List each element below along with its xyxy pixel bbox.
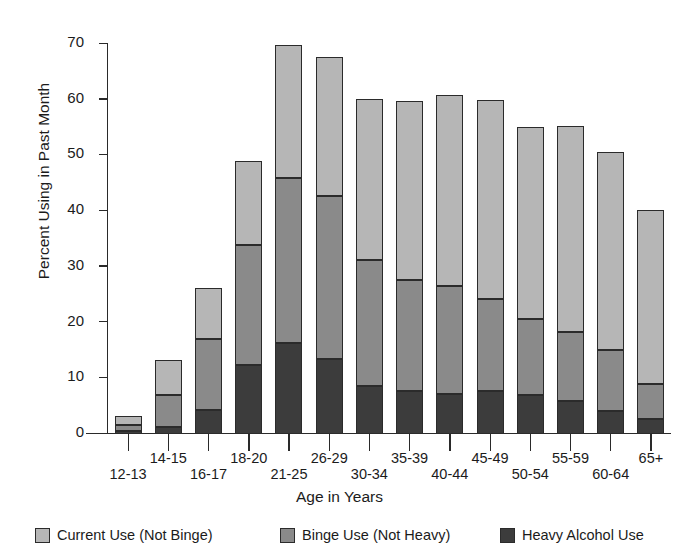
bar-segment-binge	[316, 196, 343, 359]
bar-segment-binge	[155, 395, 182, 427]
bar-segment-heavy	[637, 419, 664, 434]
bar-group	[316, 57, 343, 434]
y-tick-30	[99, 265, 108, 266]
x-tick-60-64	[610, 434, 611, 451]
bar-segment-binge	[637, 384, 664, 419]
x-label-45-49: 45-49	[455, 450, 525, 466]
legend-label-heavy: Heavy Alcohol Use	[522, 527, 644, 543]
legend-item-heavy: Heavy Alcohol Use	[500, 527, 644, 543]
bar-segment-current	[235, 161, 262, 245]
x-label-50-54: 50-54	[495, 466, 565, 482]
x-tick-16-17	[208, 434, 209, 451]
bar-segment-binge	[275, 178, 302, 343]
bar-segment-binge	[396, 280, 423, 390]
bar-group	[115, 416, 142, 434]
y-tick-label-0: 0	[22, 423, 84, 440]
bar-segment-binge	[517, 319, 544, 395]
y-tick-label-60: 60	[22, 89, 84, 106]
x-tick-26-29	[329, 434, 330, 451]
clipped-caption	[0, 0, 679, 3]
x-tick-12-13	[128, 434, 129, 451]
x-label-21-25: 21-25	[254, 466, 324, 482]
bar-group	[155, 360, 182, 434]
y-tick-20	[99, 321, 108, 322]
x-label-55-59: 55-59	[535, 450, 605, 466]
bar-segment-current	[115, 416, 142, 425]
x-label-60-64: 60-64	[576, 466, 646, 482]
y-tick-70	[99, 43, 108, 44]
legend-label-current: Current Use (Not Binge)	[57, 527, 213, 543]
x-label-65+: 65+	[616, 450, 679, 466]
bar-segment-heavy	[155, 427, 182, 434]
y-tick-50	[99, 154, 108, 155]
bar-segment-binge	[195, 339, 222, 410]
bar-group	[356, 99, 383, 434]
chart-legend: Current Use (Not Binge)Binge Use (Not He…	[0, 527, 679, 553]
x-tick-45-49	[490, 434, 491, 451]
x-tick-55-59	[570, 434, 571, 451]
bar-group	[275, 45, 302, 434]
x-axis-title: Age in Years	[0, 488, 679, 506]
legend-swatch-current	[35, 528, 50, 543]
bar-segment-heavy	[275, 343, 302, 434]
y-tick-label-70: 70	[22, 33, 84, 50]
bar-segment-current	[195, 288, 222, 339]
bar-group	[597, 152, 624, 434]
bar-segment-binge	[436, 286, 463, 394]
bar-group	[396, 101, 423, 434]
bar-segment-binge	[477, 299, 504, 390]
x-label-14-15: 14-15	[133, 450, 203, 466]
y-tick-label-30: 30	[22, 256, 84, 273]
bar-segment-heavy	[436, 394, 463, 434]
plot-area	[108, 43, 655, 434]
bar-segment-binge	[235, 245, 262, 366]
bar-segment-heavy	[356, 386, 383, 434]
y-tick-10	[99, 377, 108, 378]
y-tick-label-40: 40	[22, 200, 84, 217]
bar-group	[557, 126, 584, 434]
legend-label-binge: Binge Use (Not Heavy)	[302, 527, 450, 543]
bar-segment-binge	[356, 260, 383, 386]
y-tick-60	[99, 98, 108, 99]
legend-item-current: Current Use (Not Binge)	[35, 527, 213, 543]
bar-segment-current	[396, 101, 423, 280]
bar-segment-heavy	[597, 411, 624, 434]
bar-group	[235, 161, 262, 434]
bar-group	[477, 100, 504, 434]
x-tick-35-39	[409, 434, 410, 451]
x-tick-50-54	[530, 434, 531, 451]
bar-segment-binge	[557, 332, 584, 401]
y-tick-label-10: 10	[22, 367, 84, 384]
x-label-35-39: 35-39	[375, 450, 445, 466]
x-label-16-17: 16-17	[174, 466, 244, 482]
bar-segment-heavy	[477, 391, 504, 434]
bar-group	[517, 127, 544, 434]
bar-segment-binge	[597, 350, 624, 411]
bar-group	[637, 210, 664, 434]
legend-swatch-binge	[280, 528, 295, 543]
x-label-18-20: 18-20	[214, 450, 284, 466]
y-tick-0	[99, 433, 108, 434]
bar-segment-current	[637, 210, 664, 384]
bar-segment-current	[517, 127, 544, 319]
y-tick-40	[99, 210, 108, 211]
legend-item-binge: Binge Use (Not Heavy)	[280, 527, 450, 543]
x-tick-21-25	[288, 434, 289, 451]
bar-segment-heavy	[235, 365, 262, 434]
y-tick-label-20: 20	[22, 312, 84, 329]
x-label-12-13: 12-13	[93, 466, 163, 482]
y-axis-title: Percent Using in Past Month	[35, 41, 53, 321]
bar-segment-current	[477, 100, 504, 299]
x-label-30-34: 30-34	[334, 466, 404, 482]
x-tick-18-20	[248, 434, 249, 451]
bar-segment-heavy	[557, 401, 584, 434]
x-tick-40-44	[449, 434, 450, 451]
x-label-40-44: 40-44	[415, 466, 485, 482]
bar-segment-current	[275, 45, 302, 178]
bar-segment-heavy	[396, 391, 423, 434]
bar-group	[195, 288, 222, 434]
bar-group	[436, 95, 463, 434]
bar-segment-heavy	[195, 410, 222, 435]
x-label-26-29: 26-29	[294, 450, 364, 466]
bar-segment-heavy	[316, 359, 343, 434]
